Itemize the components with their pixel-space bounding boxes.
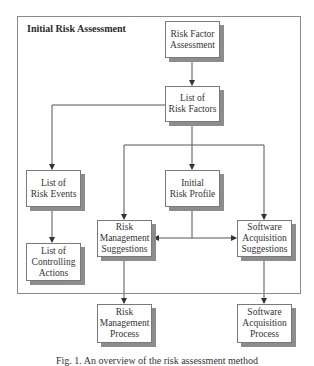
node-label: Risk <box>116 307 133 318</box>
node-list-of-risk-factors: List of Risk Factors <box>165 86 220 122</box>
node-list-of-controlling-actions: List of Controlling Actions <box>26 243 81 281</box>
node-label: Acquisition <box>242 318 286 329</box>
node-software-acquisition-suggestions: Software Acquisition Suggestions <box>237 220 292 257</box>
node-label: Risk Factors <box>169 104 217 115</box>
node-label: List of <box>41 178 66 189</box>
node-software-acquisition-process: Software Acquisition Process <box>237 304 292 343</box>
node-label: Acquisition <box>242 233 286 244</box>
node-label: Process <box>110 329 139 340</box>
node-label: Initial <box>181 178 204 189</box>
node-risk-management-process: Risk Management Process <box>97 304 152 343</box>
node-label: List of <box>41 246 66 257</box>
node-risk-management-suggestions: Risk Management Suggestions <box>97 220 152 257</box>
node-initial-risk-profile: Initial Risk Profile <box>165 170 220 207</box>
figure-caption: Fig. 1. An overview of the risk assessme… <box>0 355 314 366</box>
node-label: Controlling <box>32 257 76 268</box>
node-label: Process <box>250 329 279 340</box>
node-label: Suggestions <box>102 244 148 255</box>
node-list-of-risk-events: List of Risk Events <box>26 170 81 207</box>
node-label: Risk Profile <box>170 189 216 200</box>
node-label: Risk Events <box>31 189 77 200</box>
node-risk-factor-assessment: Risk Factor Assessment <box>165 21 220 58</box>
node-label: Management <box>100 233 150 244</box>
node-label: Actions <box>39 268 69 279</box>
node-label: Software <box>247 222 281 233</box>
node-label: Assessment <box>170 40 215 51</box>
node-label: List of <box>180 93 205 104</box>
node-label: Risk <box>116 222 133 233</box>
node-label: Software <box>247 307 281 318</box>
node-label: Suggestions <box>242 244 288 255</box>
group-title: Initial Risk Assessment <box>27 23 126 34</box>
node-label: Management <box>100 318 150 329</box>
node-label: Risk Factor <box>170 29 214 40</box>
